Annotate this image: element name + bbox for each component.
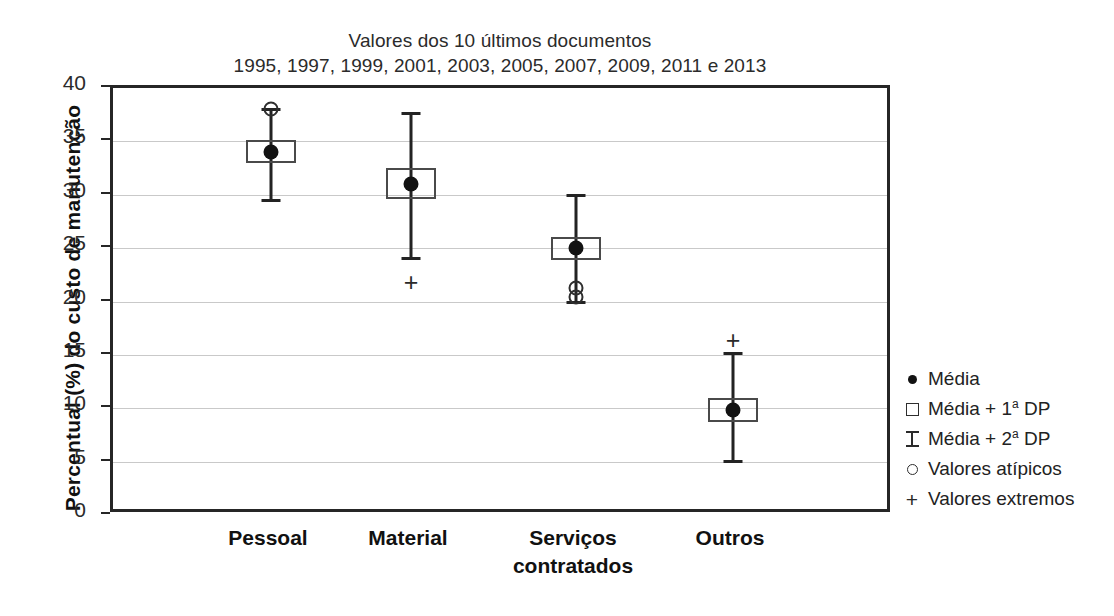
- y-tick-label-25: 25: [26, 231, 86, 255]
- legend-item[interactable]: Valores atípicos: [900, 454, 1110, 484]
- chart-legend: MédiaMédia + 1a DPMédia + 2a DPValores a…: [900, 364, 1110, 514]
- legend-item-label: Média + 2a DP: [924, 427, 1050, 450]
- chart-title: Valores dos 10 últimos documentos 1995, …: [110, 28, 890, 78]
- y-tick-mark-40: [101, 85, 110, 87]
- y-tick-label-20: 20: [26, 285, 86, 309]
- y-tick-label-30: 30: [26, 178, 86, 202]
- legend-item-label: Média: [924, 368, 980, 390]
- x-category-label-4: Outros: [630, 524, 830, 552]
- y-tick-mark-0: [101, 512, 110, 514]
- plus-icon: +: [900, 489, 924, 509]
- y-tick-label-35: 35: [26, 124, 86, 148]
- legend-item-label: Valores atípicos: [924, 458, 1062, 480]
- y-tick-mark-35: [101, 138, 110, 140]
- chart-title-line-2: 1995, 1997, 1999, 2001, 2003, 2005, 2007…: [110, 53, 890, 78]
- legend-item-label: Média + 1a DP: [924, 397, 1050, 420]
- box-plot-group[interactable]: +: [113, 88, 887, 509]
- y-tick-mark-30: [101, 192, 110, 194]
- y-tick-mark-10: [101, 405, 110, 407]
- mean-marker: [726, 403, 741, 418]
- open-square-icon: [900, 399, 924, 419]
- y-tick-mark-20: [101, 299, 110, 301]
- plot-area: ++: [110, 85, 890, 512]
- y-tick-label-15: 15: [26, 338, 86, 362]
- chart-root: Valores dos 10 últimos documentos 1995, …: [0, 0, 1114, 616]
- y-tick-label-40: 40: [26, 71, 86, 95]
- legend-item[interactable]: Média + 2a DP: [900, 424, 1110, 454]
- mean-dot-icon: [900, 369, 924, 389]
- x-category-label-line: Outros: [630, 524, 830, 552]
- open-circle-icon: [900, 459, 924, 479]
- y-tick-mark-5: [101, 459, 110, 461]
- y-tick-mark-25: [101, 245, 110, 247]
- legend-item[interactable]: Média: [900, 364, 1110, 394]
- legend-item[interactable]: +Valores extremos: [900, 484, 1110, 514]
- extreme-value-marker: +: [726, 327, 741, 352]
- y-tick-label-5: 5: [26, 445, 86, 469]
- box-plot-series-layer: ++: [113, 88, 887, 509]
- i-bar-icon: [900, 429, 924, 449]
- y-tick-label-0: 0: [26, 498, 86, 522]
- y-tick-label-10: 10: [26, 391, 86, 415]
- y-tick-mark-15: [101, 352, 110, 354]
- legend-item-label: Valores extremos: [924, 488, 1074, 510]
- chart-title-line-1: Valores dos 10 últimos documentos: [110, 28, 890, 53]
- whisker-cap-bottom: [724, 460, 743, 463]
- x-category-label-line: contratados: [473, 552, 673, 580]
- legend-item[interactable]: Média + 1a DP: [900, 394, 1110, 424]
